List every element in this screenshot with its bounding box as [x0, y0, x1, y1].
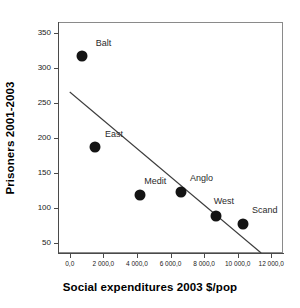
x-tick-label: 6 000,0: [160, 259, 182, 268]
y-tick-label: 250: [38, 97, 51, 108]
y-tick-label: 200: [38, 132, 51, 143]
x-tick-label: 8 000,0: [193, 259, 215, 268]
x-tick-label: 0,0: [65, 259, 74, 268]
x-tick-mark: [171, 253, 172, 258]
y-tick-mark: [54, 33, 58, 34]
x-tick-mark: [271, 253, 272, 258]
trend-line: [70, 92, 261, 253]
x-tick-label: 10 000,0: [225, 259, 250, 268]
data-point-label-east: East: [105, 129, 123, 140]
data-point-label-balt: Balt: [96, 38, 112, 49]
y-tick-label: 100: [38, 202, 51, 213]
x-tick-mark: [70, 253, 71, 258]
data-point-east: [89, 142, 100, 153]
y-tick-mark: [54, 138, 58, 139]
x-tick-mark: [137, 253, 138, 258]
y-tick-label: 150: [38, 167, 51, 178]
x-tick-mark: [238, 253, 239, 258]
y-tick-label: 350: [38, 27, 51, 38]
x-tick-label: 2 000,0: [92, 259, 114, 268]
trend-line-layer: [58, 22, 283, 253]
x-tick-label: 12 000,0: [259, 259, 284, 268]
x-tick-mark: [204, 253, 205, 258]
data-point-medit: [135, 189, 146, 200]
y-tick-label: 50: [42, 237, 51, 248]
data-point-label-medit: Medit: [144, 175, 166, 186]
data-point-anglo: [175, 187, 186, 198]
y-axis-title-label: Prisoners 2001-2003: [4, 81, 16, 194]
x-axis-title-label: Social expenditures 2003 $/pop: [63, 281, 237, 293]
y-axis-line: [58, 22, 59, 254]
data-point-west: [210, 210, 221, 221]
data-point-label-west: West: [214, 195, 234, 206]
x-axis-title: Social expenditures 2003 $/pop: [0, 281, 300, 293]
x-tick-mark: [103, 253, 104, 258]
scatter-chart: 50100150200250300350 0,02 000,04 000,06 …: [0, 0, 300, 308]
y-tick-mark: [54, 103, 58, 104]
y-tick-mark: [54, 208, 58, 209]
y-tick-mark: [54, 173, 58, 174]
x-tick-label: 4 000,0: [126, 259, 148, 268]
data-point-label-anglo: Anglo: [190, 173, 213, 184]
data-point-label-scand: Scand: [252, 205, 278, 216]
y-tick-mark: [54, 68, 58, 69]
y-tick-mark: [54, 243, 58, 244]
y-axis-title: Prisoners 2001-2003: [2, 22, 18, 253]
data-point-scand: [237, 219, 248, 230]
data-point-balt: [76, 51, 87, 62]
y-tick-label: 300: [38, 62, 51, 73]
